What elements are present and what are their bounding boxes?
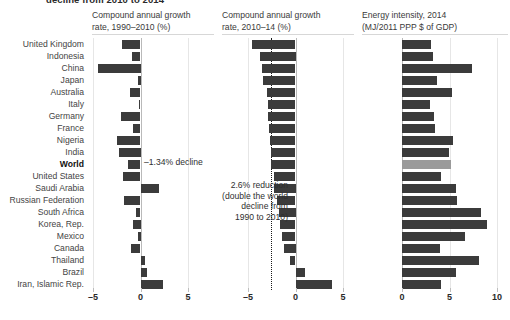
bar (133, 124, 141, 132)
chart-row (358, 182, 510, 195)
bar (402, 280, 441, 288)
chart-row (88, 242, 216, 255)
bar (260, 52, 296, 60)
chart-row (218, 98, 356, 111)
chart-root: decline from 2010 to 2014 United Kingdom… (0, 0, 510, 320)
category-label: Germany (0, 110, 84, 123)
bar (117, 136, 140, 144)
category-label: Indonesia (0, 50, 84, 63)
chart-row (88, 230, 216, 243)
axis-tick-label: 5 (340, 292, 345, 302)
category-label: United States (0, 170, 84, 183)
chart-row (218, 146, 356, 159)
chart-row (218, 74, 356, 87)
panel-energy-intensity-2014: Energy intensity, 2014 (MJ/2011 PPP $ of… (358, 0, 510, 320)
bar (402, 88, 452, 96)
chart-row (88, 50, 216, 63)
chart-row (358, 242, 510, 255)
panel-cagr-2010-2014: Compound annual growth rate, 2010–14 (%)… (218, 0, 356, 320)
category-label: Italy (0, 98, 84, 111)
category-label: Nigeria (0, 134, 84, 147)
panel-1-title-line2: rate, 1990–2010 (%) (92, 22, 232, 34)
panel-2-title: Compound annual growth rate, 2010–14 (%) (222, 10, 362, 33)
chart-row (358, 206, 510, 219)
bar (267, 88, 295, 96)
chart-row (88, 122, 216, 135)
bar (402, 100, 430, 108)
reduction-callout-line: (double the world (192, 191, 288, 202)
bar (402, 256, 479, 264)
chart-row (88, 74, 216, 87)
bar (133, 220, 140, 228)
axis-tick-label: 5 (447, 292, 452, 302)
chart-row (218, 62, 356, 75)
bar (271, 160, 296, 168)
category-label: Mexico (0, 230, 84, 243)
chart-row (358, 50, 510, 63)
chart-row (358, 266, 510, 279)
category-label: Thailand (0, 254, 84, 267)
chart-row (218, 278, 356, 291)
bar (123, 172, 140, 180)
chart-row (218, 134, 356, 147)
axis-tick-label: –5 (88, 292, 98, 302)
bar (402, 160, 451, 168)
bar (262, 64, 296, 72)
bar (282, 232, 296, 240)
chart-row (88, 134, 216, 147)
bar (402, 232, 465, 240)
chart-row (218, 110, 356, 123)
bar (139, 100, 140, 108)
chart-row (218, 86, 356, 99)
panel-2-rule (222, 34, 354, 35)
bar (402, 64, 472, 72)
bar (98, 64, 141, 72)
category-label: South Africa (0, 206, 84, 219)
bar (268, 100, 296, 108)
bar (402, 268, 456, 276)
chart-row (358, 170, 510, 183)
chart-row (88, 38, 216, 51)
axis-tick-label: 0 (399, 292, 404, 302)
chart-row (88, 62, 216, 75)
panel-3-title-line2: (MJ/2011 PPP $ of GDP) (362, 22, 502, 34)
category-label: China (0, 62, 84, 75)
bar (296, 268, 305, 276)
bar (402, 172, 441, 180)
panel-1-title-line1: Compound annual growth (92, 10, 232, 22)
chart-row (358, 254, 510, 267)
bar (271, 148, 296, 156)
panel-3-title: Energy intensity, 2014 (MJ/2011 PPP $ of… (362, 10, 502, 33)
reduction-callout: 2.6% reduction(double the worlddecline f… (192, 180, 288, 222)
chart-row (88, 110, 216, 123)
bar (268, 112, 295, 120)
bar (141, 184, 160, 192)
bar (402, 196, 457, 204)
chart-row (358, 62, 510, 75)
reduction-callout-line: 1990 to 2010) (192, 212, 288, 223)
bar (124, 196, 140, 204)
bar (290, 256, 295, 264)
chart-row (358, 278, 510, 291)
chart-row (218, 230, 356, 243)
bar (270, 136, 296, 144)
chart-row (88, 254, 216, 267)
chart-row (358, 158, 510, 171)
chart-row (358, 98, 510, 111)
reduction-callout-line: decline from (192, 201, 288, 212)
axis-tick-label: 10 (492, 292, 502, 302)
chart-row (358, 110, 510, 123)
bar (402, 136, 453, 144)
chart-row (218, 158, 356, 171)
panel-1-ticks: –505 (88, 292, 216, 308)
panel-1-rule (92, 34, 214, 35)
chart-row (218, 266, 356, 279)
bar (402, 184, 456, 192)
bar (269, 124, 296, 132)
bar (402, 76, 437, 84)
panel-2-title-line2: rate, 2010–14 (%) (222, 22, 362, 34)
bar (132, 52, 140, 60)
bar (131, 244, 141, 252)
bar (402, 208, 481, 216)
chart-row (358, 230, 510, 243)
